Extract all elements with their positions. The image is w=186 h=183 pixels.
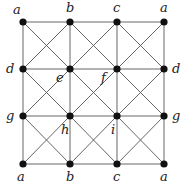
vertex-label-g: g — [172, 108, 180, 123]
vertex-f — [113, 65, 120, 72]
vertex-d — [160, 65, 167, 72]
vertex-label-g: g — [6, 108, 14, 123]
vertex-a — [160, 160, 167, 167]
vertex-a — [19, 160, 26, 167]
vertex-label-e: e — [56, 70, 64, 85]
vertex-label-i: i — [111, 122, 115, 137]
vertex-label-d: d — [172, 61, 180, 76]
vertex-label-f: f — [100, 70, 108, 85]
vertex-e — [66, 65, 73, 72]
vertex-c — [113, 160, 120, 167]
vertex-a — [19, 18, 26, 25]
vertex-a — [160, 18, 167, 25]
vertex-g — [19, 112, 26, 119]
vertex-label-c: c — [113, 0, 121, 15]
vertex-label-a: a — [13, 2, 21, 17]
vertex-label-b: b — [66, 0, 74, 15]
vertex-label-b: b — [66, 169, 74, 183]
grid-graph-diagram: abcadefdghigabca — [0, 0, 186, 183]
vertex-label-c: c — [113, 169, 121, 183]
vertex-c — [113, 18, 120, 25]
vertex-label-a: a — [160, 0, 168, 15]
vertex-b — [66, 160, 73, 167]
vertex-b — [66, 18, 73, 25]
vertex-h — [66, 112, 73, 119]
vertex-label-a: a — [160, 169, 168, 183]
vertex-g — [160, 112, 167, 119]
vertex-label-d: d — [6, 61, 14, 76]
graph-edges — [23, 22, 164, 164]
vertex-label-a: a — [17, 169, 25, 183]
vertex-d — [19, 65, 26, 72]
vertex-i — [113, 112, 120, 119]
node-labels: abcadefdghigabca — [6, 0, 180, 183]
vertex-label-h: h — [61, 122, 69, 137]
